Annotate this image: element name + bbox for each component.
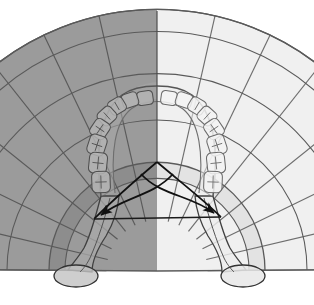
figure-root [0, 0, 314, 305]
fan-sector-left-half [0, 9, 157, 271]
left-mandibular-condyle [54, 265, 98, 287]
right-tooth-7 [203, 171, 222, 193]
dental-arch-radial-diagram [0, 0, 314, 305]
fan-sector-right-half [157, 9, 314, 271]
left-tooth-7 [91, 171, 110, 193]
right-mandibular-condyle [221, 265, 265, 287]
